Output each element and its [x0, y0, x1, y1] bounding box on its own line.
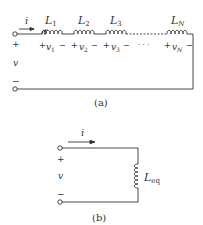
current-label-b: i [81, 127, 84, 138]
l1-plus: + [39, 41, 46, 50]
caption-b: (b) [92, 212, 106, 223]
l3-minus: − [123, 41, 130, 50]
l3-plus: + [103, 41, 110, 50]
terminal-top-a [13, 32, 17, 36]
source-minus-a: − [12, 76, 20, 86]
inductor-leq-coil [134, 164, 138, 188]
inductor-l1-coil [42, 30, 62, 35]
inductor-l3-coil [106, 30, 126, 34]
source-minus-b: − [57, 189, 65, 199]
l1-voltage: v1 [46, 42, 55, 53]
terminal-bottom-a [13, 87, 17, 91]
inductor-l3-label: L3 [109, 14, 122, 28]
terminal-top-b [58, 146, 62, 150]
figure-b-labels: i + v − Leq (b) [57, 127, 160, 223]
source-plus-a: + [12, 39, 20, 49]
figure-b [58, 140, 138, 204]
inductor-l1-label: L1 [44, 14, 57, 28]
inductor-leq-label: Leq [143, 171, 160, 185]
ln-minus: − [186, 41, 193, 50]
figure-a [13, 28, 193, 92]
figure-a-labels: i + v − L1 + v1 − L2 + v2 − L3 + v3 − · … [12, 14, 193, 108]
l2-minus: − [91, 41, 98, 50]
l1-minus: − [59, 41, 66, 50]
inductor-l2-coil [74, 30, 94, 34]
l2-plus: + [71, 41, 78, 50]
ellipsis: · · · [138, 41, 149, 49]
inductor-ln-coil [167, 30, 187, 34]
source-plus-b: + [57, 154, 65, 164]
inductor-l2-label: L2 [77, 14, 90, 28]
current-label-a: i [25, 15, 28, 26]
terminal-bottom-b [58, 200, 62, 204]
caption-a: (a) [94, 97, 108, 108]
l3-voltage: v3 [111, 42, 120, 53]
source-voltage-a: v [13, 58, 18, 68]
ln-voltage: vN [172, 42, 183, 53]
l2-voltage: v2 [79, 42, 88, 53]
source-voltage-b: v [58, 171, 63, 181]
inductor-ln-label: LN [170, 14, 185, 28]
series-inductors-diagram: i + v − L1 + v1 − L2 + v2 − L3 + v3 − · … [0, 0, 203, 225]
ln-plus: + [164, 41, 171, 50]
